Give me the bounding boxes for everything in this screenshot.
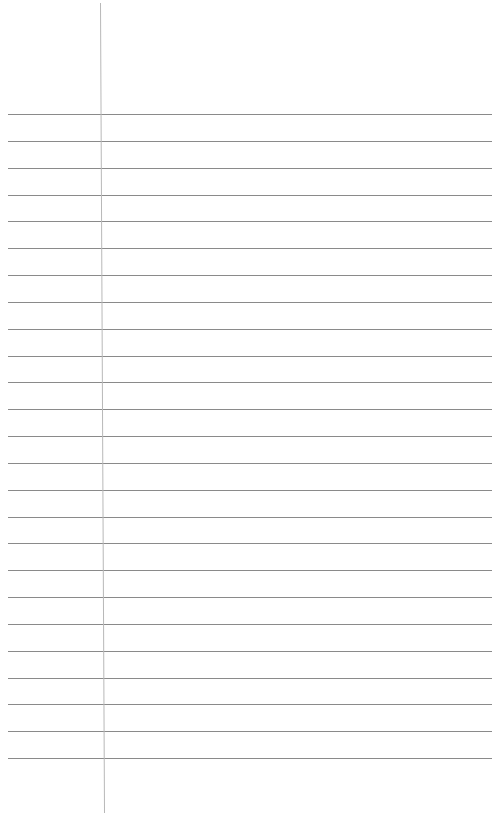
paper-sheet: [0, 0, 495, 816]
paper-background: [0, 0, 495, 816]
